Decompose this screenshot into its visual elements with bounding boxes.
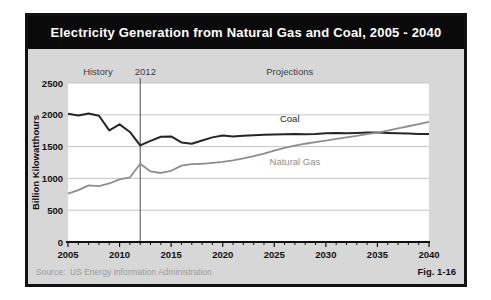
x-tick-label: 2040: [418, 249, 439, 260]
figure-box: Electricity Generation from Natural Gas …: [25, 13, 467, 287]
source-text: US Energy Information Administration: [70, 267, 212, 277]
x-tick-label: 2025: [264, 249, 286, 260]
y-tick-label: 2000: [42, 109, 63, 120]
y-tick-label: 1500: [42, 141, 63, 152]
y-tick-label: 500: [47, 205, 63, 216]
source-label: Source:: [36, 267, 65, 277]
x-tick-label: 2015: [161, 249, 183, 260]
plot-area: [68, 83, 429, 242]
y-axis-title: Billion Kilowatthours: [30, 115, 41, 210]
x-tick-label: 2035: [367, 249, 389, 260]
x-tick-label: 2010: [109, 249, 130, 260]
line-chart: 0500100015002000250020052010201520202025…: [28, 49, 464, 284]
x-tick-label: 2005: [57, 249, 79, 260]
source-note: Source: US Energy Information Administra…: [36, 267, 212, 277]
x-tick-label: 2030: [315, 249, 336, 260]
figure-title-bar: Electricity Generation from Natural Gas …: [28, 16, 464, 49]
annotation-projections: Projections: [266, 66, 313, 77]
annotation-coal: Coal: [280, 113, 300, 124]
chart-panel: 0500100015002000250020052010201520202025…: [28, 49, 464, 284]
y-tick-label: 0: [58, 237, 63, 248]
annotation-2012: 2012: [135, 66, 156, 77]
annotation-history: History: [83, 66, 113, 77]
y-tick-label: 1000: [42, 173, 63, 184]
figure-number: Fig. 1-16: [417, 266, 456, 277]
figure-title: Electricity Generation from Natural Gas …: [51, 25, 442, 40]
annotation-natural-gas: Natural Gas: [270, 156, 321, 167]
y-tick-label: 2500: [42, 78, 63, 89]
x-tick-label: 2020: [212, 249, 233, 260]
